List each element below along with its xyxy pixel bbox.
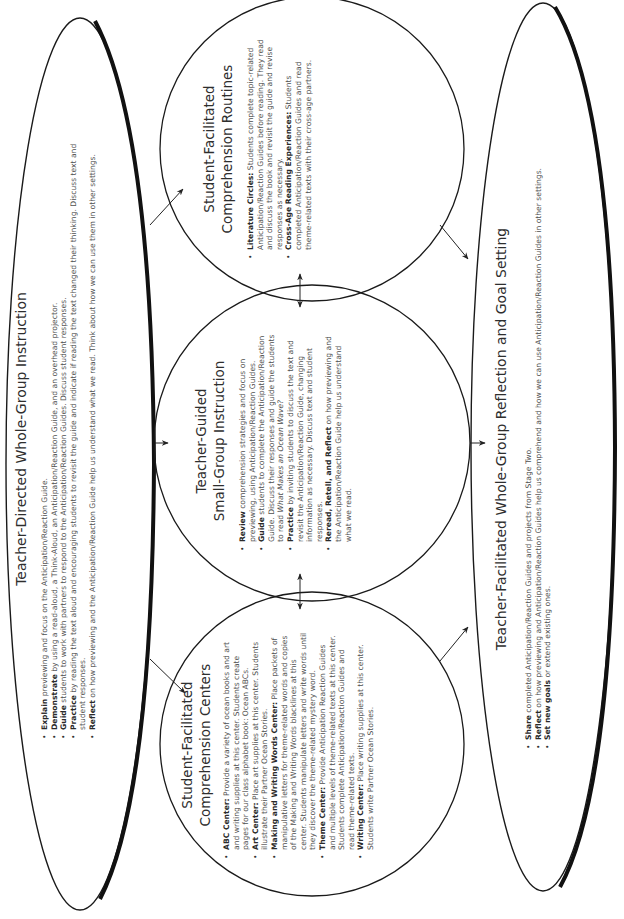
list-item: Explain previewing and focus on the Anti… <box>40 139 50 739</box>
bottom-ellipse-title: Teacher-Facilitated Whole-Group Reflecti… <box>492 129 510 749</box>
list-item: Reflect on how previewing and the Antici… <box>88 139 98 739</box>
routines-title: Student-Facilitated Comprehension Routin… <box>200 39 236 259</box>
list-item: Demonstrate by using a read-aloud, a Thi… <box>50 139 60 739</box>
top-ellipse-title: Teacher-Directed Whole-Group Instruction <box>12 139 30 739</box>
centers-list: ABC Center: Provide a variety of ocean b… <box>222 631 376 859</box>
list-item: Making and Writing Words Center: Place p… <box>270 631 318 859</box>
centers-section: Student-Facilitated Comprehension Center… <box>178 631 376 859</box>
list-item: Guide students to work with partners to … <box>59 139 69 739</box>
centers-title: Student-Facilitated Comprehension Center… <box>178 631 214 859</box>
list-item: Set new goals or extend existing ones. <box>543 129 553 749</box>
small-group-title: Teacher-Guided Small-Group Instruction <box>192 331 228 551</box>
small-group-list: Review comprehension strategies and focu… <box>238 331 353 551</box>
bottom-ellipse-list: Share completed Anticipation/Reaction Gu… <box>524 129 553 749</box>
list-item: Theme Center: Provide Anticipation React… <box>318 631 356 859</box>
top-ellipse-list: Explain previewing and focus on the Anti… <box>40 139 98 739</box>
list-item: Cross-Age Reading Experiences: Students … <box>284 39 313 259</box>
list-item: Share completed Anticipation/Reaction Gu… <box>524 129 534 749</box>
list-item: Reflect on how previewing and Anticipati… <box>534 129 544 749</box>
routines-section: Student-Facilitated Comprehension Routin… <box>200 39 313 259</box>
list-item: ABC Center: Provide a variety of ocean b… <box>222 631 251 859</box>
list-item: Practice by reading the text aloud and e… <box>69 139 88 739</box>
bottom-ellipse: Teacher-Facilitated Whole-Group Reflecti… <box>492 129 553 749</box>
small-group-section: Teacher-Guided Small-Group Instruction R… <box>192 331 353 551</box>
list-item: Literature Circles: Students complete to… <box>246 39 284 259</box>
list-item: Reread, Retell, and Reflect on how previ… <box>324 331 353 551</box>
list-item: Review comprehension strategies and focu… <box>238 331 257 551</box>
list-item: Art Center: Place art supplies at this c… <box>251 631 270 859</box>
routines-list: Literature Circles: Students complete to… <box>246 39 313 259</box>
list-item: Writing Center: Place writing supplies a… <box>356 631 375 859</box>
list-item: Guide students to complete the Anticipat… <box>257 331 286 551</box>
flow-diagram: Teacher-Directed Whole-Group Instruction… <box>0 0 624 919</box>
top-ellipse: Teacher-Directed Whole-Group Instruction… <box>12 139 98 739</box>
list-item: Practice by inviting students to discuss… <box>286 331 324 551</box>
